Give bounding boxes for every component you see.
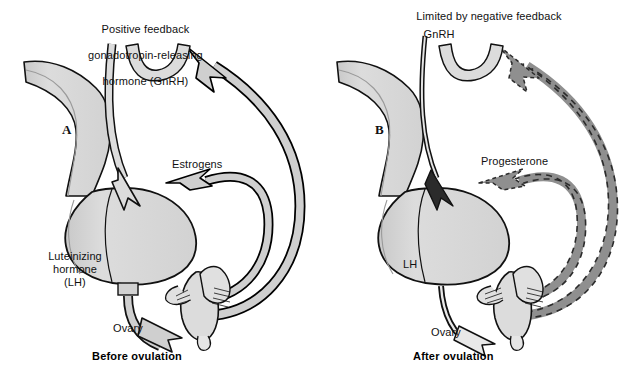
progesterone-label: Progesterone — [481, 155, 548, 168]
panel-letter-b: B — [375, 122, 384, 138]
panel-a-before-ovulation: Positive feedback gonadotropin-releasing… — [0, 0, 313, 375]
gnrh-label-line2: gonadotropin-releasing — [88, 49, 203, 61]
ovary-label-a: Ovary — [113, 322, 143, 335]
gnrh-label-line1: Positive feedback — [102, 23, 190, 35]
figure-canvas: Positive feedback gonadotropin-releasing… — [0, 0, 626, 375]
pituitary-gland-structure — [378, 188, 509, 285]
panel-b-illustration — [313, 0, 626, 375]
caption-after-ovulation: After ovulation — [413, 350, 494, 362]
ovary-label-b: Ovary — [431, 326, 461, 339]
negative-feedback-label: Limited by negative feedback — [389, 10, 589, 23]
panel-letter-a: A — [62, 122, 71, 138]
caption-before-ovulation: Before ovulation — [92, 350, 182, 362]
infundibulum-band — [439, 44, 503, 81]
gnrh-feedback-label: Positive feedback gonadotropin-releasing… — [46, 10, 226, 101]
gnrh-label-line3: hormone (GnRH) — [103, 75, 189, 87]
gnrh-label-b: GnRH — [389, 28, 489, 41]
estrogens-label: Estrogens — [172, 158, 222, 171]
lh-label-b: LH — [403, 258, 417, 271]
lh-label: Luteinizinghormone(LH) — [30, 250, 120, 289]
panel-b-after-ovulation: Limited by negative feedback GnRH B Prog… — [313, 0, 626, 375]
